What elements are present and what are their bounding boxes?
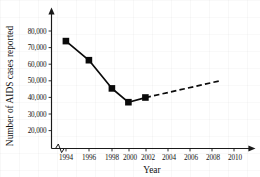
x-axis [52, 144, 256, 153]
data-point-1996 [86, 57, 93, 64]
y-axis [48, 8, 54, 149]
y-tick-label-50000: 50,000 [28, 77, 47, 85]
chart-canvas: 80,000 70,000 60,000 50,000 40,000 30,00… [0, 0, 260, 177]
y-tick-label-70000: 70,000 [28, 44, 47, 52]
x-tick-label-2002: 2002 [141, 154, 155, 162]
x-tick-label-1994: 1994 [59, 154, 73, 162]
data-point-1994 [63, 38, 70, 45]
data-point-2002 [142, 94, 149, 101]
x-tick-label-1996: 1996 [82, 154, 96, 162]
x-tick-labels: 1994 1996 1998 2000 2002 2004 2006 2008 … [59, 154, 242, 162]
aids-cases-line-chart: 80,000 70,000 60,000 50,000 40,000 30,00… [0, 0, 260, 177]
y-axis-arrowhead-icon [48, 8, 54, 15]
y-tick-label-80000: 80,000 [28, 28, 47, 36]
y-tick-label-40000: 40,000 [28, 94, 47, 102]
x-tick-label-2000: 2000 [123, 154, 137, 162]
x-tick-label-2008: 2008 [206, 154, 220, 162]
y-tick-label-20000: 20,000 [28, 127, 47, 135]
data-point-markers [63, 38, 149, 106]
x-axis-title: Year [143, 165, 161, 175]
x-tick-label-2006: 2006 [184, 154, 198, 162]
data-point-1998 [109, 85, 116, 92]
y-axis-title: Number of AIDS cases reported [5, 26, 15, 147]
x-tick-label-2004: 2004 [162, 154, 176, 162]
series-line-reported-solid [66, 41, 146, 102]
data-point-2000 [125, 99, 132, 106]
y-tick-label-30000: 30,000 [28, 111, 47, 119]
y-tick-label-60000: 60,000 [28, 61, 47, 69]
x-axis-arrowhead-icon [248, 145, 255, 151]
y-tick-labels: 80,000 70,000 60,000 50,000 40,000 30,00… [28, 28, 47, 136]
series-line-projected-dashed [146, 81, 220, 98]
x-tick-label-1998: 1998 [105, 154, 119, 162]
x-tick-label-2010: 2010 [228, 154, 242, 162]
